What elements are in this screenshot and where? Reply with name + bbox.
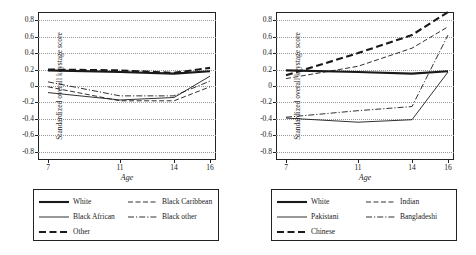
x-tick-label: 16 [206,164,214,172]
y-tick-label: -0.2 [260,99,272,107]
x-axis-title-left: Age [38,174,216,182]
x-tick-label: 11 [354,164,361,172]
legend-item: White [277,194,362,209]
plot-area-right: Standardized overall keystage score 0.80… [276,12,454,160]
legend-line-swatch [39,227,69,237]
x-axis-title-right: Age [276,174,454,182]
legend-item: Indian [366,194,451,209]
y-tick-label: 0.8 [25,16,34,24]
legend-item: Black Caribbean [128,194,213,209]
legend-label: White [73,198,91,206]
legend-item: Black other [128,209,213,224]
legend-item: Pakistani [277,209,362,224]
y-tick-label: -0.8 [22,148,34,156]
legend-label: Indian [400,198,419,206]
legend-item: Black African [39,209,124,224]
y-tick-label: 0 [30,82,34,90]
y-tick-label: -0.6 [22,132,34,140]
plot-area-left: Standardized overall keystage score 0.80… [38,12,216,160]
y-tick-label: 0.8 [263,16,272,24]
series-line [48,81,210,96]
legend-label: Other [73,228,90,236]
y-tick-label: 0.6 [25,33,34,41]
legend-item: Other [39,224,124,239]
legend-line-swatch [366,197,396,207]
series-lines-left [38,12,216,160]
series-line [286,12,448,75]
x-tick-label: 14 [170,164,178,172]
legend-line-swatch [128,212,158,222]
y-tick-label: 0.6 [263,33,272,41]
y-tick-label: -0.4 [260,115,272,123]
legend-label: Pakistani [311,213,339,221]
y-tick-label: 0 [268,82,272,90]
series-lines-right [276,12,454,160]
legend-line-swatch [39,212,69,222]
y-tick-label: 0.4 [25,49,34,57]
legend-label: Black Caribbean [162,198,212,206]
series-line [286,70,448,73]
series-line [48,87,210,101]
y-tick-label: 0.2 [25,66,34,74]
y-tick-label: -0.6 [260,132,272,140]
y-tick-label: -0.4 [22,115,34,123]
legend-right: WhiteIndianPakistaniBangladeshiChinese [271,189,457,241]
x-tick-label: 11 [116,164,123,172]
y-tick-label: -0.2 [22,99,34,107]
x-tick-label: 7 [284,164,288,172]
chart-panel-right: Standardized overall keystage score 0.80… [238,0,476,255]
legend-line-swatch [128,197,158,207]
legend-item: Chinese [277,224,362,239]
legend-label: Black African [73,213,115,221]
legend-line-swatch [366,212,396,222]
legend-line-swatch [277,197,307,207]
legend-line-swatch [39,197,69,207]
x-tick-label: 7 [46,164,50,172]
legend-item: Bangladeshi [366,209,451,224]
x-tick-label: 16 [444,164,452,172]
legend-label: Bangladeshi [400,213,437,221]
legend-item: White [39,194,124,209]
legend-label: Black other [162,213,197,221]
legend-line-swatch [277,212,307,222]
chart-panel-left: Standardized overall keystage score 0.80… [0,0,238,255]
x-tick-label: 14 [408,164,416,172]
y-tick-label: 0.4 [263,49,272,57]
figure-container: Standardized overall keystage score 0.80… [0,0,476,255]
y-tick-label: -0.8 [260,148,272,156]
legend-label: White [311,198,329,206]
y-tick-label: 0.2 [263,66,272,74]
legend-line-swatch [277,227,307,237]
legend-left: WhiteBlack CaribbeanBlack AfricanBlack o… [33,189,219,241]
legend-label: Chinese [311,228,335,236]
